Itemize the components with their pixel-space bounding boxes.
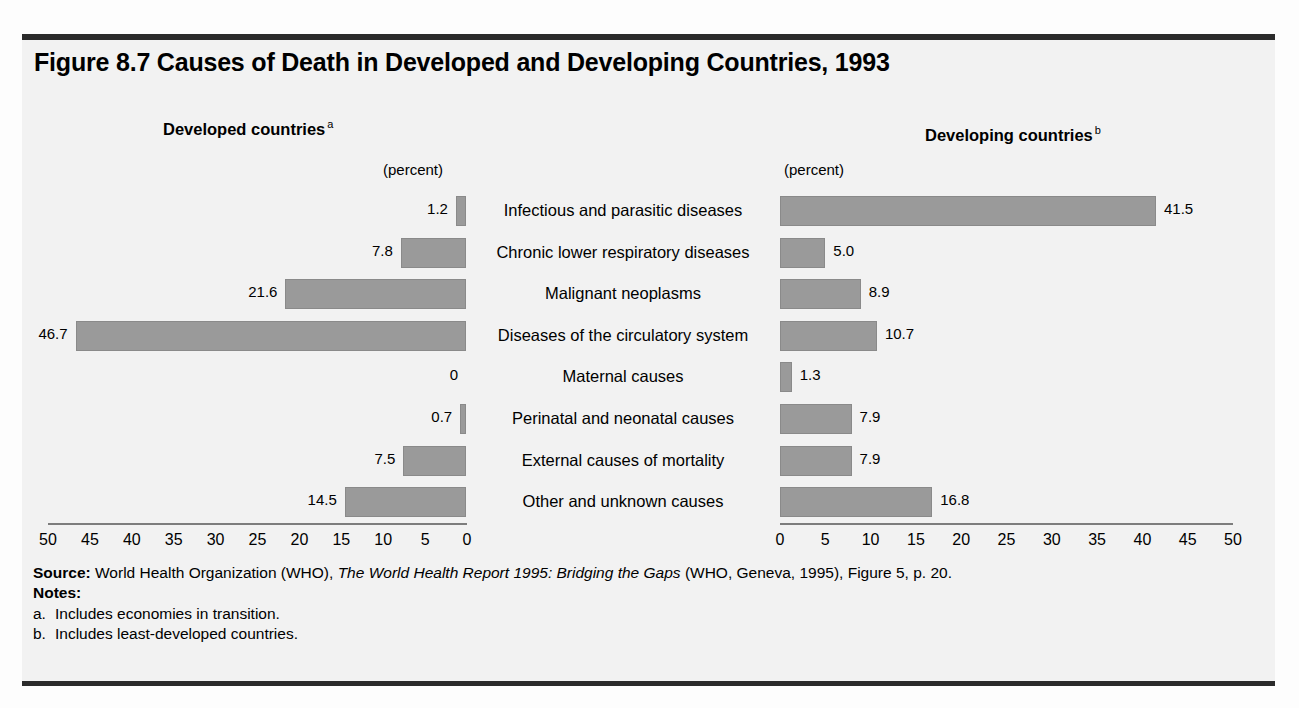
- bar: [780, 196, 1156, 226]
- bar-row: 21.6: [48, 273, 466, 315]
- axis-tick-label: 30: [1035, 531, 1069, 549]
- bar-value-label: 16.8: [940, 492, 969, 507]
- category-label: Maternal causes: [466, 356, 780, 398]
- panel-heading-developing-text: Developing countries: [925, 126, 1093, 144]
- bar-row: 41.5: [780, 190, 1233, 232]
- bar-value-label: 7.9: [860, 451, 881, 466]
- bar-row: 46.7: [48, 315, 466, 357]
- top-rule: [22, 34, 1275, 40]
- bar-row: 0.7: [48, 398, 466, 440]
- bar-row: 7.8: [48, 232, 466, 274]
- axis-tick-label: 35: [157, 531, 191, 549]
- bar: [401, 238, 466, 268]
- category-label: Chronic lower respiratory diseases: [466, 232, 780, 274]
- bar-row: 1.2: [48, 190, 466, 232]
- bar: [780, 321, 877, 351]
- panel-heading-developing-note: b: [1095, 124, 1101, 136]
- category-label: Infectious and parasitic diseases: [466, 190, 780, 232]
- source-title-italic: The World Health Report 1995: Bridging t…: [338, 564, 681, 581]
- bar: [780, 279, 861, 309]
- bar: [780, 487, 932, 517]
- bar: [285, 279, 466, 309]
- bar: [780, 238, 825, 268]
- bar-row: 7.5: [48, 440, 466, 482]
- bar: [780, 362, 792, 392]
- axis-tick-label: 25: [241, 531, 275, 549]
- bar-value-label: 21.6: [248, 284, 277, 299]
- note-marker: a.: [33, 604, 55, 624]
- bar: [403, 446, 466, 476]
- category-label: Diseases of the circulatory system: [466, 315, 780, 357]
- bar: [780, 446, 852, 476]
- bar-value-label: 10.7: [885, 326, 914, 341]
- bar: [456, 196, 466, 226]
- axis-tick-label: 15: [899, 531, 933, 549]
- axis-tick-label: 50: [1216, 531, 1250, 549]
- bar: [345, 487, 466, 517]
- axis-tick-label: 10: [854, 531, 888, 549]
- bar-row: 0: [48, 356, 466, 398]
- axis-tick-label: 40: [1125, 531, 1159, 549]
- chart-developing-countries: 41.55.08.910.71.37.97.916.8: [780, 190, 1233, 523]
- figure-footer: Source: World Health Organization (WHO),…: [33, 563, 952, 645]
- notes-label: Notes:: [33, 583, 952, 603]
- bar-value-label: 46.7: [38, 326, 67, 341]
- bar-value-label: 1.3: [800, 367, 821, 382]
- axis-tick-label: 40: [115, 531, 149, 549]
- axis-tick-label: 50: [31, 531, 65, 549]
- category-label: Malignant neoplasms: [466, 273, 780, 315]
- axis-tick-label: 0: [450, 531, 484, 549]
- bar-value-label: 14.5: [308, 492, 337, 507]
- note-marker: b.: [33, 624, 55, 644]
- panel-heading-developed: Developed countriesa: [163, 118, 333, 139]
- axis-tick-label: 5: [808, 531, 842, 549]
- bar-row: 5.0: [780, 232, 1233, 274]
- note-item: b.Includes least-developed countries.: [33, 624, 952, 644]
- axis-tick-label: 0: [763, 531, 797, 549]
- bar-row: 7.9: [780, 440, 1233, 482]
- bar-value-label: 8.9: [869, 284, 890, 299]
- axis-tick-label: 25: [990, 531, 1024, 549]
- bar-row: 10.7: [780, 315, 1233, 357]
- unit-label-right: (percent): [784, 161, 844, 178]
- figure-page: Figure 8.7 Causes of Death in Developed …: [0, 0, 1299, 708]
- note-text: Includes economies in transition.: [55, 605, 280, 622]
- axis-tick-label: 35: [1080, 531, 1114, 549]
- axis-tick-label: 10: [366, 531, 400, 549]
- bar-value-label: 41.5: [1164, 201, 1193, 216]
- axis-tick-label: 5: [408, 531, 442, 549]
- bar-row: 16.8: [780, 481, 1233, 523]
- chart-developed-countries: 1.27.821.646.700.77.514.5: [48, 190, 466, 523]
- panel-heading-developing: Developing countriesb: [925, 124, 1101, 145]
- source-label: Source:: [33, 564, 91, 581]
- bar-value-label: 7.9: [860, 409, 881, 424]
- bar-value-label: 7.8: [372, 243, 393, 258]
- axis-line-left: [48, 523, 467, 525]
- category-label: Perinatal and neonatal causes: [466, 398, 780, 440]
- source-text-after: (WHO, Geneva, 1995), Figure 5, p. 20.: [681, 564, 952, 581]
- source-line: Source: World Health Organization (WHO),…: [33, 563, 952, 583]
- axis-tick-label: 20: [282, 531, 316, 549]
- bottom-rule: [22, 681, 1275, 686]
- panel-heading-developed-note: a: [327, 118, 333, 130]
- axis-tick-label: 30: [199, 531, 233, 549]
- bar-value-label: 0: [450, 367, 458, 382]
- unit-label-left: (percent): [383, 161, 443, 178]
- bar-value-label: 5.0: [833, 243, 854, 258]
- axis-tick-label: 45: [73, 531, 107, 549]
- note-text: Includes least-developed countries.: [55, 625, 298, 642]
- panel-heading-developed-text: Developed countries: [163, 120, 325, 138]
- axis-tick-label: 15: [324, 531, 358, 549]
- axis-tick-label: 20: [944, 531, 978, 549]
- bar-row: 1.3: [780, 356, 1233, 398]
- source-text-before: World Health Organization (WHO),: [91, 564, 338, 581]
- note-item: a.Includes economies in transition.: [33, 604, 952, 624]
- notes-list: a.Includes economies in transition.b.Inc…: [33, 604, 952, 645]
- category-label-column: Infectious and parasitic diseasesChronic…: [466, 190, 780, 523]
- axis-line-right: [780, 523, 1233, 525]
- bar-row: 7.9: [780, 398, 1233, 440]
- bar: [76, 321, 466, 351]
- bar-row: 8.9: [780, 273, 1233, 315]
- figure-title: Figure 8.7 Causes of Death in Developed …: [34, 48, 890, 77]
- bar-value-label: 0.7: [431, 409, 452, 424]
